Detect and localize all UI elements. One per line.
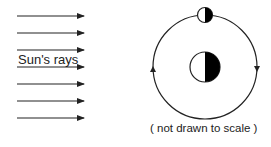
scale-caption: ( not drawn to scale ) [150, 122, 257, 134]
sun-rays [17, 16, 84, 118]
moon-icon [198, 8, 213, 23]
orbit-arrow-down-icon [254, 66, 260, 72]
sun-rays-label: Sun's rays [18, 52, 78, 67]
earth-icon [190, 52, 220, 82]
orbit-arrow-up-icon [150, 66, 156, 72]
